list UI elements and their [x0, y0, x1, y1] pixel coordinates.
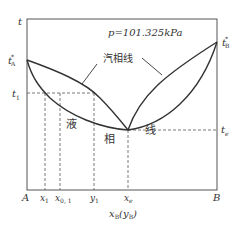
liquid-label-char3: 线: [145, 123, 156, 137]
vapor-curve-right: [128, 42, 217, 130]
liquid-label-char2: 相: [104, 133, 115, 146]
phase-diagram: p=101.325kPa t t*A t*B t1 te 汽相线 液 相 线 A…: [0, 0, 243, 234]
x-axis-label: xB(yB): [109, 208, 137, 220]
tick-y1: y1: [89, 193, 99, 204]
vapor-curve-left: [27, 60, 128, 130]
tick-xe: xe: [124, 193, 133, 204]
liquid-curve-left: [27, 60, 128, 130]
liquid-label-char1: 液: [66, 117, 77, 131]
tb-star-label: t*B: [222, 35, 230, 49]
tick-x1: x1: [40, 193, 49, 204]
liquid-curve-right: [128, 42, 217, 130]
vapor-line-label: 汽相线: [103, 52, 133, 64]
plot-frame: [27, 19, 217, 190]
tick-x01: x0, 1: [55, 193, 72, 204]
ta-star-label: t*A: [8, 53, 16, 67]
t1-label: t1: [12, 88, 20, 101]
corner-a-label: A: [21, 192, 29, 203]
te-label: te: [221, 124, 229, 137]
pressure-title: p=101.325kPa: [108, 27, 182, 38]
dashed-guides: [27, 93, 217, 190]
y-axis-label: t: [18, 16, 23, 27]
corner-b-label: B: [212, 192, 220, 203]
